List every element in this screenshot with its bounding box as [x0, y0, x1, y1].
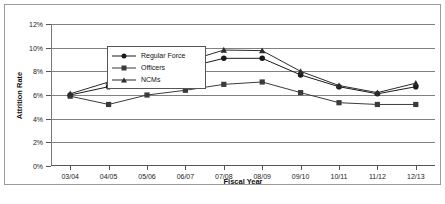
legend-item: NCMs [112, 74, 201, 85]
y-tick-mark [46, 166, 51, 167]
y-tick-label: 2% [33, 139, 43, 146]
x-tick-mark [377, 166, 378, 170]
legend-label: Officers [141, 64, 165, 71]
data-point [259, 56, 265, 62]
chart-frame: Attrition Rate 0%2%4%6%8%10%12% 03/0404/… [4, 4, 441, 185]
y-tick-label: 12% [29, 21, 43, 28]
plot-area: 0%2%4%6%8%10%12% 03/0404/0505/0606/0707/… [51, 24, 435, 166]
attrition-rate-figure: Attrition Rate 0%2%4%6%8%10%12% 03/0404/… [0, 0, 445, 204]
legend-label: Regular Force [141, 52, 185, 59]
x-tick-mark [416, 166, 417, 170]
data-point [106, 102, 111, 107]
x-tick-mark [70, 166, 71, 170]
legend-item: Officers [112, 62, 201, 73]
data-point [260, 79, 265, 84]
data-point [297, 68, 303, 74]
chart-legend: Regular ForceOfficersNCMs [107, 46, 206, 89]
y-tick-label: 6% [33, 92, 43, 99]
x-tick-mark [301, 166, 302, 170]
data-point [221, 82, 226, 87]
y-axis-title-text: Attrition Rate [16, 71, 25, 119]
figure-caption [4, 190, 441, 204]
square-marker [112, 63, 136, 73]
data-point [144, 92, 149, 97]
x-tick-mark [185, 166, 186, 170]
y-tick-label: 8% [33, 68, 43, 75]
y-tick-label: 10% [29, 44, 43, 51]
y-axis-title: Attrition Rate [14, 24, 26, 166]
x-axis-title: Fiscal Year [51, 177, 435, 186]
circle-marker [112, 51, 136, 61]
y-tick-label: 4% [33, 115, 43, 122]
data-point [413, 80, 419, 86]
x-tick-mark [109, 166, 110, 170]
data-point [221, 56, 227, 62]
triangle-marker [112, 75, 136, 85]
x-tick-mark [339, 166, 340, 170]
y-tick-label: 0% [33, 163, 43, 170]
data-point [298, 90, 303, 95]
x-tick-mark [224, 166, 225, 170]
legend-label: NCMs [141, 76, 160, 83]
data-point [336, 100, 341, 105]
data-point [375, 102, 380, 107]
legend-item: Regular Force [112, 50, 201, 61]
data-point [413, 102, 418, 107]
x-tick-mark [147, 166, 148, 170]
x-tick-mark [262, 166, 263, 170]
